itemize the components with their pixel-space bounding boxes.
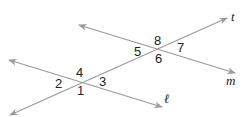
line-label-m: m	[226, 73, 235, 88]
line-l	[9, 60, 162, 107]
angle-label-4: 4	[76, 65, 83, 80]
angle-label-1: 1	[77, 83, 84, 98]
line-t	[10, 18, 227, 115]
labels-layer: tmℓ	[164, 9, 235, 106]
line-label-l: ℓ	[164, 91, 170, 106]
angle-label-2: 2	[55, 76, 62, 91]
angle-label-5: 5	[134, 44, 141, 59]
lines-layer	[9, 18, 235, 115]
parallel-lines-diagram: tmℓ 12345678	[0, 0, 249, 117]
angle-label-3: 3	[99, 74, 106, 89]
angle-label-7: 7	[177, 40, 184, 55]
angle-label-6: 6	[155, 51, 162, 66]
angle-label-8: 8	[154, 33, 161, 48]
line-label-t: t	[231, 9, 235, 24]
